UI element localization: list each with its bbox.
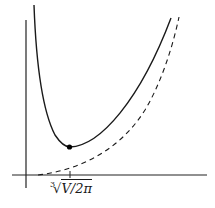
- radicand: V/2π: [61, 179, 92, 196]
- plot-canvas: [0, 0, 215, 208]
- minimum-point: [67, 144, 72, 149]
- root-index: 3: [50, 180, 55, 189]
- asymptote-curve: [38, 17, 179, 175]
- x-tick-label: 3√V/2π: [48, 181, 92, 196]
- total-surface-curve: [34, 5, 171, 147]
